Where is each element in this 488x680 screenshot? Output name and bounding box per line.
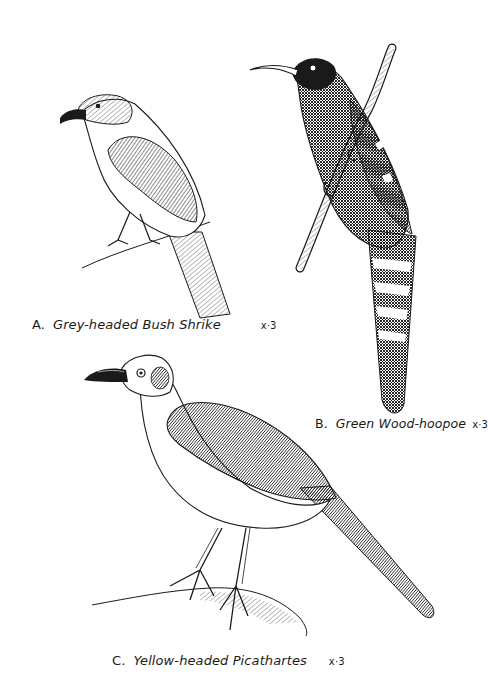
caption-scale: x·3 bbox=[261, 320, 277, 331]
bird-a-grey-headed-bush-shrike bbox=[60, 95, 230, 318]
caption-green-wood-hoopoe: B.Green Wood-hoopoex·3 bbox=[315, 416, 488, 431]
caption-name: Green Wood-hoopoe bbox=[336, 416, 466, 431]
bird-b-green-wood-hoopoe bbox=[250, 48, 416, 413]
caption-letter: A. bbox=[32, 317, 45, 332]
caption-letter: B. bbox=[315, 416, 328, 431]
caption-grey-headed-bush-shrike: A.Grey-headed Bush Shrikex·3 bbox=[32, 317, 277, 332]
caption-yellow-headed-picathartes: C.Yellow-headed Picathartesx·3 bbox=[112, 653, 345, 668]
caption-name: Grey-headed Bush Shrike bbox=[53, 317, 221, 332]
caption-letter: C. bbox=[112, 653, 125, 668]
caption-scale: x·3 bbox=[472, 419, 488, 430]
caption-name: Yellow-headed Picathartes bbox=[133, 653, 306, 668]
caption-scale: x·3 bbox=[329, 656, 345, 667]
